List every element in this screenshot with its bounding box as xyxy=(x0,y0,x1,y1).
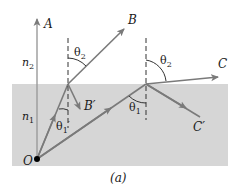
refraction-diagram: A B B′ C C′ O n2 n1 θ2 θ1′ θ2 θ1 (a) xyxy=(0,0,244,188)
label-origin: O xyxy=(23,154,33,168)
label-a: A xyxy=(43,17,53,31)
label-b: B xyxy=(127,13,137,27)
label-c-prime: C′ xyxy=(193,120,205,134)
figure-caption: (a) xyxy=(110,171,127,185)
label-c: C xyxy=(218,57,227,71)
label-theta2-left: θ2 xyxy=(74,46,86,61)
label-theta2-right: θ2 xyxy=(160,54,172,69)
label-b-prime: B′ xyxy=(83,99,96,113)
label-n2: n2 xyxy=(22,56,34,71)
ray-c xyxy=(146,77,218,84)
origin-dot xyxy=(34,156,40,162)
